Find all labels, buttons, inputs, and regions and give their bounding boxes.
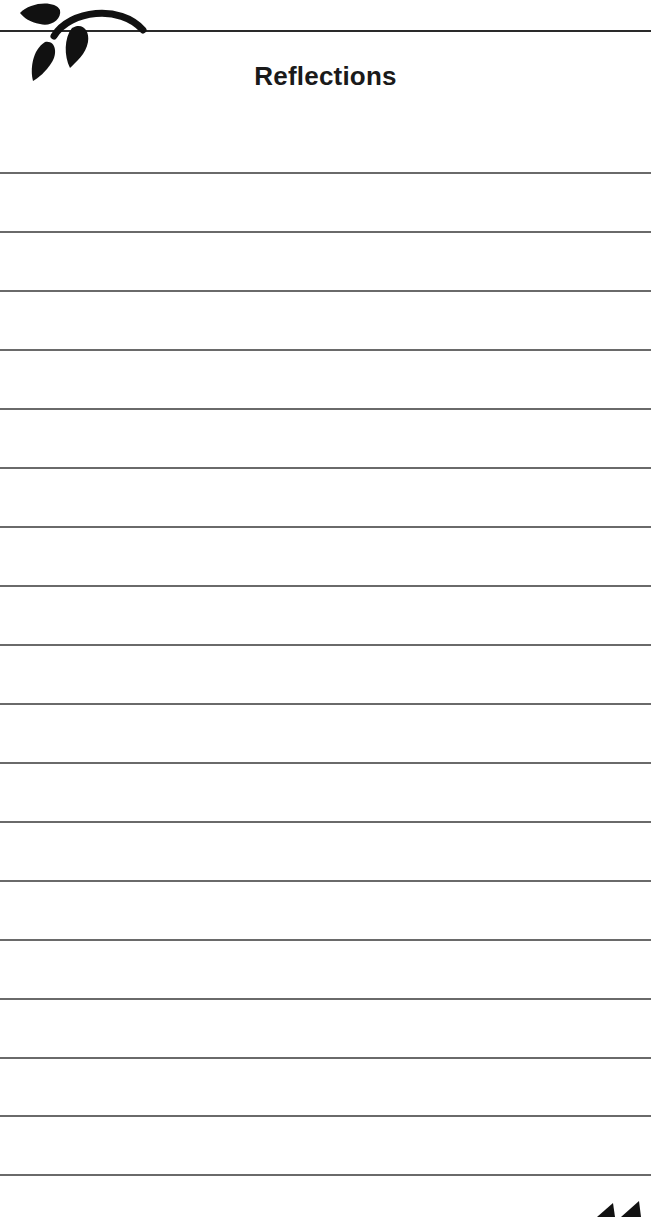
ruled-line	[0, 821, 651, 823]
ruled-line	[0, 998, 651, 1000]
page-title: Reflections	[0, 61, 651, 92]
ruled-line	[0, 467, 651, 469]
ruled-line	[0, 644, 651, 646]
ruled-line	[0, 703, 651, 705]
ruled-line	[0, 1057, 651, 1059]
ruled-line	[0, 526, 651, 528]
ruled-line	[0, 585, 651, 587]
ruled-line	[0, 349, 651, 351]
ruled-line	[0, 880, 651, 882]
ruled-line	[0, 939, 651, 941]
ruled-line	[0, 290, 651, 292]
ruled-line	[0, 762, 651, 764]
ruled-line	[0, 231, 651, 233]
ruled-line	[0, 408, 651, 410]
page-number-partial	[593, 1199, 651, 1217]
ruled-line	[0, 172, 651, 174]
ruled-line	[0, 1115, 651, 1117]
ruled-line	[0, 1174, 651, 1176]
